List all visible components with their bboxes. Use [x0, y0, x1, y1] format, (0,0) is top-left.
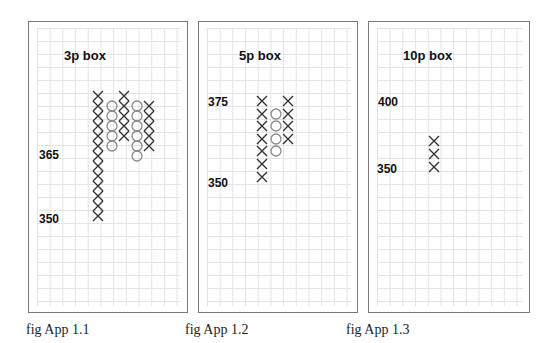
figure-caption: fig App 1.3 [346, 322, 409, 338]
x-mark-icon [92, 210, 104, 222]
box-size-label: 3p box [64, 48, 106, 63]
x-mark-icon [256, 120, 268, 132]
x-mark-icon [428, 148, 440, 160]
o-mark-icon [270, 145, 282, 157]
grid [37, 28, 181, 306]
x-mark-icon [256, 95, 268, 107]
o-mark-icon [270, 108, 282, 120]
price-label-375: 375 [208, 95, 228, 109]
x-mark-icon [282, 108, 294, 120]
price-label-350: 350 [208, 176, 228, 190]
x-mark-icon [282, 95, 294, 107]
x-mark-icon [282, 120, 294, 132]
grid [207, 28, 351, 306]
o-mark-icon [270, 120, 282, 132]
grid [377, 28, 523, 306]
x-mark-icon [256, 158, 268, 170]
x-mark-icon [256, 145, 268, 157]
x-mark-icon [143, 140, 155, 152]
x-mark-icon [118, 130, 130, 142]
chart-panel-10p: 10p box 400 350 [368, 21, 530, 313]
chart-panel-3p: 3p box 365 350 [28, 21, 188, 313]
x-mark-icon [428, 161, 440, 173]
figure-caption: fig App 1.2 [185, 322, 248, 338]
x-mark-icon [256, 171, 268, 183]
price-label-350: 350 [377, 162, 397, 176]
price-label-400: 400 [378, 95, 398, 109]
o-mark-icon [131, 150, 143, 162]
box-size-label: 5p box [239, 48, 281, 63]
box-size-label: 10p box [403, 48, 452, 63]
o-mark-icon [106, 140, 118, 152]
x-mark-icon [428, 135, 440, 147]
o-mark-icon [270, 133, 282, 145]
figure-caption: fig App 1.1 [26, 322, 89, 338]
chart-panel-5p: 5p box 375 350 [198, 21, 358, 313]
x-mark-icon [282, 133, 294, 145]
x-mark-icon [256, 108, 268, 120]
x-mark-icon [256, 133, 268, 145]
price-label-350: 350 [39, 212, 59, 226]
price-label-365: 365 [39, 148, 59, 162]
